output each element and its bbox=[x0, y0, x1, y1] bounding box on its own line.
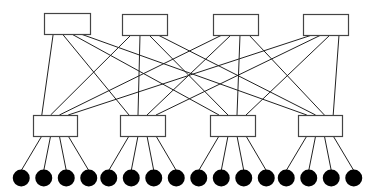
host-node-B3-1 bbox=[190, 170, 207, 187]
host-link bbox=[246, 136, 266, 171]
host-node-B1-2 bbox=[35, 170, 52, 187]
link-T4-B3 bbox=[246, 35, 330, 115]
host-link bbox=[309, 136, 316, 171]
top-switch-layer bbox=[45, 14, 349, 36]
host-node-B1-1 bbox=[13, 170, 30, 187]
top-switch-T3 bbox=[214, 15, 259, 36]
host-node-B3-4 bbox=[258, 170, 275, 187]
host-link bbox=[147, 136, 154, 171]
links bbox=[21, 34, 354, 171]
host-link bbox=[44, 136, 51, 171]
network-topology-diagram bbox=[0, 0, 373, 196]
host-node-B3-3 bbox=[235, 170, 252, 187]
top-switch-T2 bbox=[123, 15, 168, 36]
host-link bbox=[333, 136, 354, 171]
host-node-B4-4 bbox=[345, 170, 362, 187]
top-switch-T4 bbox=[304, 15, 349, 36]
link-T4-B1 bbox=[68, 35, 312, 115]
link-T1-B4 bbox=[81, 34, 307, 115]
host-node-B2-1 bbox=[100, 170, 117, 187]
host-node-B1-4 bbox=[80, 170, 97, 187]
host-node-B2-4 bbox=[168, 170, 185, 187]
host-link bbox=[21, 136, 42, 171]
bottom-switch-layer bbox=[34, 116, 343, 137]
bottom-switch-B2 bbox=[121, 116, 166, 137]
host-link bbox=[237, 136, 244, 171]
link-T1-B2 bbox=[62, 34, 129, 115]
host-node-B2-2 bbox=[123, 170, 140, 187]
link-T1-B1 bbox=[42, 34, 53, 115]
link-T3-B4 bbox=[249, 35, 324, 115]
host-link bbox=[286, 136, 307, 171]
host-link bbox=[324, 136, 331, 171]
host-node-B1-3 bbox=[58, 170, 75, 187]
host-link bbox=[221, 136, 228, 171]
top-switch-T1 bbox=[45, 14, 91, 35]
host-link bbox=[199, 136, 219, 171]
host-node-B3-2 bbox=[213, 170, 230, 187]
host-node-B2-3 bbox=[145, 170, 162, 187]
host-link bbox=[59, 136, 66, 171]
link-T1-B3 bbox=[72, 34, 219, 115]
host-layer bbox=[13, 170, 363, 187]
bottom-switch-B3 bbox=[211, 116, 256, 137]
link-T4-B4 bbox=[333, 35, 339, 115]
host-link bbox=[131, 136, 138, 171]
host-link bbox=[109, 136, 129, 171]
host-node-B4-2 bbox=[300, 170, 317, 187]
host-link bbox=[156, 136, 176, 171]
bottom-switch-B4 bbox=[299, 116, 343, 137]
host-node-B4-3 bbox=[323, 170, 340, 187]
host-link bbox=[68, 136, 89, 171]
bottom-switch-B1 bbox=[34, 116, 78, 137]
host-node-B4-1 bbox=[278, 170, 295, 187]
